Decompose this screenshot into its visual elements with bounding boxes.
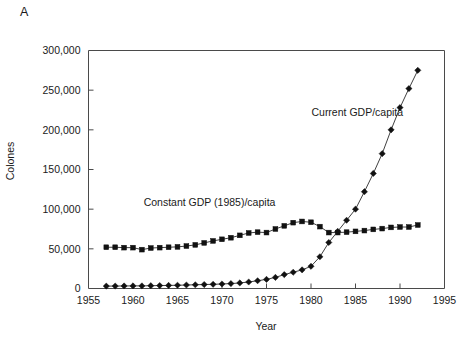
y-tick-label: 150,000 <box>43 163 81 175</box>
data-point-marker <box>229 235 234 240</box>
data-point-marker <box>183 282 189 288</box>
data-point-marker <box>219 281 225 287</box>
data-point-marker <box>398 225 403 230</box>
data-point-marker <box>415 67 421 73</box>
y-tick-label: 100,000 <box>43 203 81 215</box>
data-point-marker <box>255 230 260 235</box>
series-1 <box>104 219 420 252</box>
data-point-marker <box>299 267 305 273</box>
data-point-marker <box>246 231 251 236</box>
data-point-marker <box>166 245 171 250</box>
plot-frame <box>89 51 445 289</box>
data-point-marker <box>255 278 261 284</box>
data-point-marker <box>380 226 385 231</box>
data-point-marker <box>174 282 180 288</box>
data-point-marker <box>237 233 242 238</box>
data-point-marker <box>415 223 420 228</box>
x-tick-label: 1995 <box>433 294 457 306</box>
data-point-marker <box>157 282 163 288</box>
data-point-marker <box>318 224 323 229</box>
y-axis-ticks: 050,000100,000150,000200,000250,000300,0… <box>43 44 94 294</box>
chart-page: A Colones Year 050,000100,000150,000200,… <box>0 0 476 346</box>
data-point-marker <box>362 228 367 233</box>
data-point-marker <box>113 245 118 250</box>
x-tick-label: 1975 <box>255 294 279 306</box>
data-point-marker <box>379 151 385 157</box>
x-tick-label: 1985 <box>344 294 368 306</box>
axis-frame <box>89 51 445 289</box>
data-point-marker <box>353 229 358 234</box>
x-tick-label: 1990 <box>388 294 412 306</box>
data-point-marker <box>148 283 154 289</box>
data-point-marker <box>131 245 136 250</box>
data-point-marker <box>326 230 331 235</box>
data-point-marker <box>344 230 349 235</box>
data-point-marker <box>300 219 305 224</box>
x-tick-label: 1980 <box>299 294 323 306</box>
data-point-marker <box>406 85 412 91</box>
data-point-marker <box>201 281 207 287</box>
data-point-marker <box>166 282 172 288</box>
data-point-marker <box>220 237 225 242</box>
x-tick-label: 1970 <box>210 294 234 306</box>
data-point-marker <box>202 240 207 245</box>
y-tick-label: 250,000 <box>43 84 81 96</box>
series-2 <box>103 67 421 289</box>
data-point-marker <box>281 272 287 278</box>
data-point-marker <box>104 245 109 250</box>
data-point-marker <box>210 281 216 287</box>
data-point-marker <box>237 280 243 286</box>
data-point-marker <box>290 269 296 275</box>
data-point-marker <box>157 245 162 250</box>
data-point-marker <box>246 279 252 285</box>
data-point-marker <box>264 230 269 235</box>
data-point-marker <box>309 220 314 225</box>
data-point-marker <box>228 280 234 286</box>
data-point-marker <box>175 244 180 249</box>
data-point-marker <box>282 223 287 228</box>
data-point-marker <box>184 244 189 249</box>
y-tick-label: 0 <box>75 282 81 294</box>
x-tick-label: 1955 <box>77 294 101 306</box>
data-point-marker <box>148 246 153 251</box>
data-point-marker <box>273 227 278 232</box>
series-label: Current GDP/capita <box>311 106 403 118</box>
data-point-marker <box>388 127 394 133</box>
y-tick-label: 200,000 <box>43 124 81 136</box>
data-point-marker <box>272 274 278 280</box>
data-point-marker <box>140 247 145 252</box>
series-line-path <box>106 70 418 286</box>
y-tick-label: 50,000 <box>48 243 80 255</box>
data-point-marker <box>263 276 269 282</box>
y-tick-label: 300,000 <box>43 44 81 56</box>
data-point-marker <box>291 220 296 225</box>
data-point-marker <box>407 225 412 230</box>
line-chart-plot: 050,000100,000150,000200,000250,000300,0… <box>0 0 476 346</box>
data-point-marker <box>192 282 198 288</box>
data-point-marker <box>370 170 376 176</box>
data-point-marker <box>389 225 394 230</box>
data-point-marker <box>211 239 216 244</box>
data-point-marker <box>122 245 127 250</box>
data-point-marker <box>361 189 367 195</box>
series-label: Constant GDP (1985)/capita <box>144 196 276 208</box>
x-tick-label: 1960 <box>121 294 145 306</box>
data-point-marker <box>371 227 376 232</box>
x-tick-label: 1965 <box>166 294 190 306</box>
data-point-marker <box>193 242 198 247</box>
data-series-group <box>103 67 421 289</box>
